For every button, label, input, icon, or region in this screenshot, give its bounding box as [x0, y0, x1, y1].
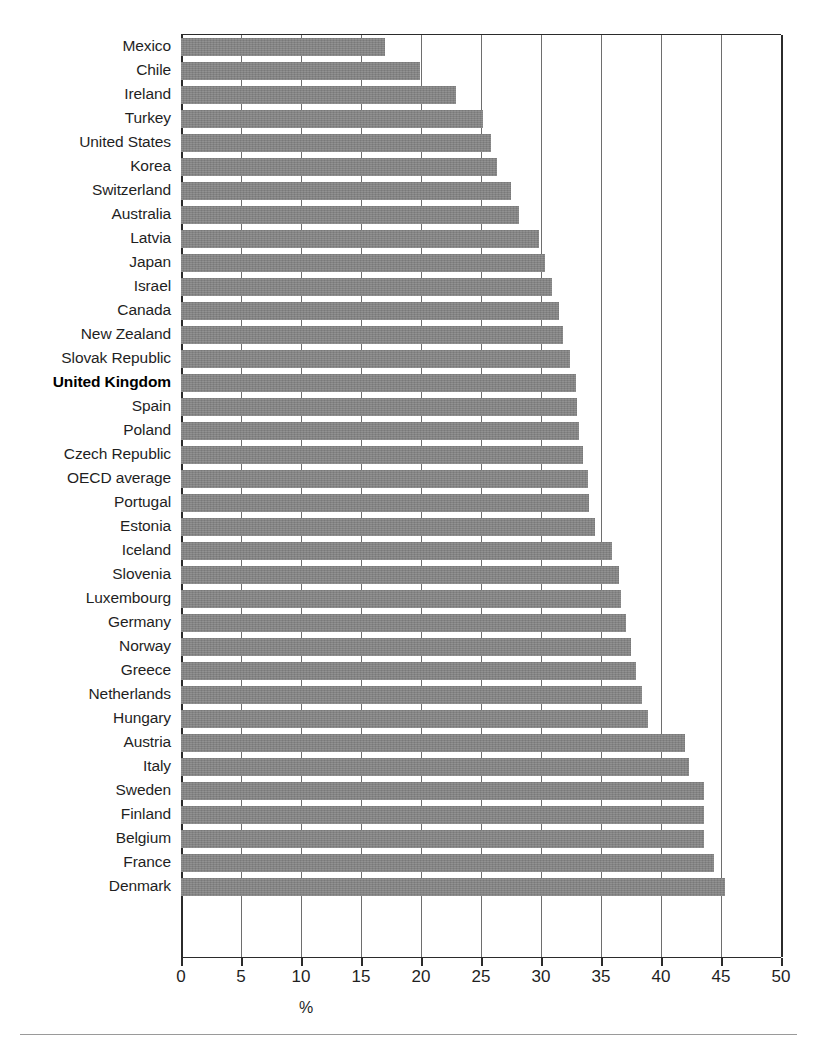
category-label: Greece — [0, 661, 171, 679]
x-axis-tick-labels: 05101520253035404550 — [0, 966, 817, 992]
tick-label-40: 40 — [631, 966, 691, 988]
category-label: Mexico — [0, 37, 171, 55]
tick-mark-20 — [421, 958, 423, 966]
bar — [181, 518, 595, 536]
bar — [181, 38, 385, 56]
plot-area — [181, 34, 781, 958]
bar — [181, 254, 545, 272]
category-label: Turkey — [0, 109, 171, 127]
category-label: Estonia — [0, 517, 171, 535]
tick-label-20: 20 — [391, 966, 451, 988]
category-label: Australia — [0, 205, 171, 223]
category-label: Czech Republic — [0, 445, 171, 463]
bar — [181, 326, 563, 344]
footer-divider — [20, 1034, 797, 1035]
category-label: Poland — [0, 421, 171, 439]
category-label: Denmark — [0, 877, 171, 895]
category-label: Austria — [0, 733, 171, 751]
bar — [181, 350, 570, 368]
bar — [181, 182, 511, 200]
gridline-50 — [781, 35, 783, 957]
category-label: Israel — [0, 277, 171, 295]
tick-label-10: 10 — [271, 966, 331, 988]
tick-mark-45 — [721, 958, 723, 966]
tick-mark-35 — [601, 958, 603, 966]
bar — [181, 782, 704, 800]
tick-label-0: 0 — [151, 966, 211, 988]
tick-label-5: 5 — [211, 966, 271, 988]
category-label: Iceland — [0, 541, 171, 559]
bar — [181, 566, 619, 584]
tick-mark-0 — [181, 958, 183, 966]
bar — [181, 374, 576, 392]
x-axis-tick-marks — [181, 958, 781, 966]
tick-label-50: 50 — [751, 966, 811, 988]
bar — [181, 446, 583, 464]
horizontal-bar-chart: MexicoChileIrelandTurkeyUnited StatesKor… — [0, 0, 817, 1047]
bar — [181, 110, 483, 128]
category-label: Chile — [0, 61, 171, 79]
tick-mark-5 — [241, 958, 243, 966]
category-label: Finland — [0, 805, 171, 823]
category-label: Spain — [0, 397, 171, 415]
category-label: United States — [0, 133, 171, 151]
bar — [181, 830, 704, 848]
bar — [181, 206, 519, 224]
bar — [181, 710, 648, 728]
category-label: OECD average — [0, 469, 171, 487]
category-label: Switzerland — [0, 181, 171, 199]
bar — [181, 86, 456, 104]
bar — [181, 590, 621, 608]
bar — [181, 470, 588, 488]
category-label: Latvia — [0, 229, 171, 247]
category-label: Sweden — [0, 781, 171, 799]
tick-mark-15 — [361, 958, 363, 966]
tick-mark-50 — [781, 958, 783, 966]
bars-layer — [181, 35, 781, 957]
bar — [181, 134, 491, 152]
bar — [181, 734, 685, 752]
category-label: Norway — [0, 637, 171, 655]
tick-mark-30 — [541, 958, 543, 966]
category-label: New Zealand — [0, 325, 171, 343]
category-label: Canada — [0, 301, 171, 319]
tick-label-30: 30 — [511, 966, 571, 988]
bar — [181, 614, 626, 632]
bar — [181, 230, 539, 248]
category-label: Belgium — [0, 829, 171, 847]
category-label: Ireland — [0, 85, 171, 103]
category-label: Portugal — [0, 493, 171, 511]
bar — [181, 302, 559, 320]
tick-label-25: 25 — [451, 966, 511, 988]
category-label: United Kingdom — [0, 373, 171, 391]
category-label: Slovak Republic — [0, 349, 171, 367]
category-label: Hungary — [0, 709, 171, 727]
tick-label-45: 45 — [691, 966, 751, 988]
category-label: Japan — [0, 253, 171, 271]
bar — [181, 758, 689, 776]
category-label: Luxembourg — [0, 589, 171, 607]
bar — [181, 806, 704, 824]
category-label: Slovenia — [0, 565, 171, 583]
bar — [181, 422, 579, 440]
bar — [181, 638, 631, 656]
bar — [181, 278, 552, 296]
x-axis-title: % — [181, 999, 431, 1017]
category-label: Netherlands — [0, 685, 171, 703]
category-label: Germany — [0, 613, 171, 631]
bar — [181, 542, 612, 560]
tick-label-35: 35 — [571, 966, 631, 988]
category-label: Korea — [0, 157, 171, 175]
bar — [181, 854, 714, 872]
tick-mark-10 — [301, 958, 303, 966]
bar — [181, 878, 725, 896]
category-label: France — [0, 853, 171, 871]
category-axis-labels: MexicoChileIrelandTurkeyUnited StatesKor… — [0, 34, 176, 958]
bar — [181, 662, 636, 680]
tick-mark-40 — [661, 958, 663, 966]
tick-mark-25 — [481, 958, 483, 966]
category-label: Italy — [0, 757, 171, 775]
bar — [181, 686, 642, 704]
bar — [181, 62, 420, 80]
bar — [181, 398, 577, 416]
